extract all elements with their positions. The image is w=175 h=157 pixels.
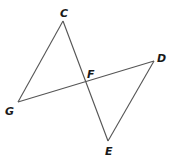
label-e: E xyxy=(105,145,113,157)
diagram-svg: C G D E F xyxy=(0,0,175,157)
segment-ce xyxy=(63,21,108,141)
segment-cg xyxy=(18,21,63,102)
label-c: C xyxy=(60,7,68,20)
label-f: F xyxy=(87,68,95,81)
geometry-diagram: C G D E F xyxy=(0,0,175,157)
label-d: D xyxy=(157,52,166,65)
label-g: G xyxy=(5,105,14,118)
